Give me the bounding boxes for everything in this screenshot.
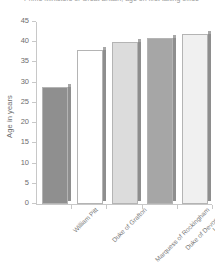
bar-side-shadow xyxy=(173,35,176,201)
y-axis-title: Age in years xyxy=(5,77,14,157)
bar[interactable] xyxy=(77,50,103,204)
y-tick: 25 xyxy=(32,102,36,103)
y-tick: 0 xyxy=(32,203,36,204)
y-tick: 20 xyxy=(32,122,36,123)
x-axis-label: William Pitt xyxy=(71,206,99,234)
y-tick: 35 xyxy=(32,61,36,62)
y-tick: 30 xyxy=(32,82,36,83)
y-tick-label: 35 xyxy=(21,56,29,65)
y-tick-label: 0 xyxy=(25,198,29,207)
y-tick-label: 30 xyxy=(21,77,29,86)
bar-top-shadow xyxy=(68,84,71,87)
bar-top-shadow xyxy=(138,39,141,42)
y-tick-label: 10 xyxy=(21,158,29,167)
bar-top-shadow xyxy=(173,35,176,38)
y-tick: 40 xyxy=(32,41,36,42)
y-tick-label: 40 xyxy=(21,36,29,45)
bar-top-shadow xyxy=(103,47,106,50)
bar[interactable] xyxy=(42,87,68,204)
bars-layer xyxy=(37,22,212,204)
x-axis-line xyxy=(36,204,212,205)
plot-area: 051015202530354045 xyxy=(36,22,212,205)
bar-side-shadow xyxy=(68,84,71,201)
x-axis-label: Duke of Grafton xyxy=(110,206,147,243)
bar-face xyxy=(42,87,68,204)
bar[interactable] xyxy=(182,34,208,204)
x-axis-labels: William PittDuke of GraftonMarquess of R… xyxy=(36,206,212,276)
bar-side-shadow xyxy=(103,47,106,201)
bar-face xyxy=(182,34,208,204)
y-tick: 10 xyxy=(32,163,36,164)
bar[interactable] xyxy=(147,38,173,204)
x-tick xyxy=(212,205,213,209)
bar-face xyxy=(112,42,138,204)
y-tick: 45 xyxy=(32,21,36,22)
chart-title: Prime Ministers of Great Britain, age on… xyxy=(24,0,204,3)
y-tick-label: 5 xyxy=(25,178,29,187)
y-tick: 15 xyxy=(32,142,36,143)
bar-chart: Prime Ministers of Great Britain, age on… xyxy=(0,0,215,276)
y-tick-label: 25 xyxy=(21,97,29,106)
bar-side-shadow xyxy=(138,39,141,201)
y-tick-label: 45 xyxy=(21,16,29,25)
y-tick-label: 15 xyxy=(21,137,29,146)
bar-top-shadow xyxy=(208,31,211,34)
y-tick-label: 20 xyxy=(21,117,29,126)
bar-face xyxy=(77,50,103,204)
bar-side-shadow xyxy=(208,31,211,201)
bar-face xyxy=(147,38,173,204)
bar[interactable] xyxy=(112,42,138,204)
y-tick: 5 xyxy=(32,183,36,184)
